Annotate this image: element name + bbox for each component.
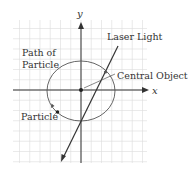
particle-label: Particle [21, 111, 58, 122]
y-axis-label: y [76, 8, 83, 19]
central-object-leader [84, 74, 115, 88]
y-axis-arrow-icon [78, 22, 84, 29]
particle-orbit-diagram: y x Path of Particle Laser Light Central… [0, 0, 193, 171]
origin-dot [79, 88, 83, 92]
central-object-dot [104, 70, 107, 73]
laser-label: Laser Light [107, 31, 163, 42]
x-axis-label: x [152, 85, 158, 96]
path-label-line2: Particle [22, 59, 59, 70]
central-object-label: Central Object [117, 70, 188, 81]
path-label-line1: Path of [22, 47, 57, 58]
laser-arrow-icon [61, 154, 66, 162]
x-axis-arrow-icon [142, 87, 149, 93]
